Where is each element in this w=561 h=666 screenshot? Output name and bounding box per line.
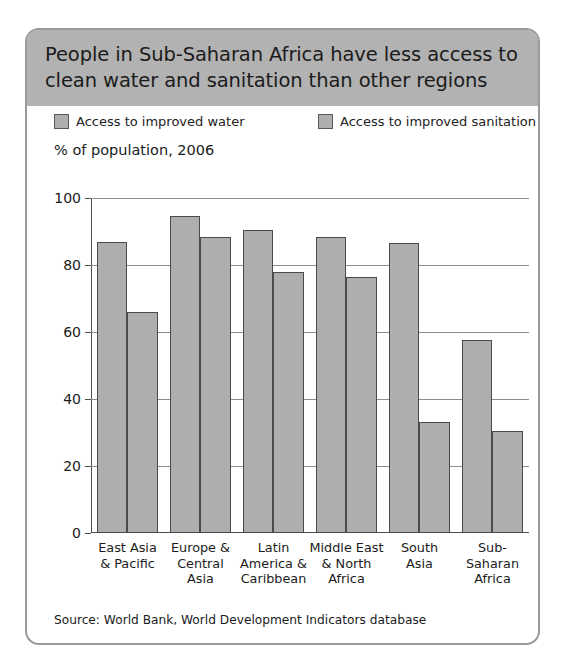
bar (97, 242, 127, 533)
y-tick-mark (85, 533, 91, 534)
legend-item-sanitation: Access to improved sanitation (318, 114, 536, 129)
legend-label-water: Access to improved water (76, 114, 244, 129)
bar (346, 277, 376, 533)
x-axis-category-label: Sub- Saharan Africa (447, 540, 537, 587)
y-tick-mark (85, 466, 91, 467)
chart-title: People in Sub-Saharan Africa have less a… (45, 42, 520, 94)
chart-figure: People in Sub-Saharan Africa have less a… (25, 28, 540, 645)
legend-swatch-sanitation-icon (318, 114, 333, 129)
bar (462, 340, 492, 533)
y-tick-mark (85, 198, 91, 199)
y-tick-mark (85, 332, 91, 333)
y-tick-label: 20 (63, 458, 81, 474)
bar (170, 216, 200, 533)
legend-label-sanitation: Access to improved sanitation (340, 114, 536, 129)
y-axis-line (91, 198, 92, 533)
chart-legend: Access to improved water Access to impro… (27, 106, 538, 140)
bar (243, 230, 273, 533)
bar-group: East Asia & Pacific (97, 198, 158, 533)
y-tick-mark (85, 399, 91, 400)
bar-group: Middle East & North Africa (316, 198, 377, 533)
bar (492, 431, 522, 533)
bar (200, 237, 230, 533)
source-note: Source: World Bank, World Development In… (54, 613, 426, 627)
plot-wrapper: 020406080100 East Asia & PacificEurope &… (27, 170, 538, 575)
chart-subtitle: % of population, 2006 (54, 142, 214, 158)
bar (316, 237, 346, 533)
bar (419, 422, 449, 533)
legend-swatch-water-icon (54, 114, 69, 129)
bar (389, 243, 419, 533)
bar-group: Latin America & Caribbean (243, 198, 304, 533)
y-tick-label: 40 (63, 391, 81, 407)
y-tick-label: 0 (72, 525, 81, 541)
y-tick-label: 60 (63, 324, 81, 340)
bar-group: Europe & Central Asia (170, 198, 231, 533)
bar (273, 272, 303, 533)
plot-area: 020406080100 East Asia & PacificEurope &… (91, 198, 529, 533)
bar (127, 312, 157, 533)
bar-group: Sub- Saharan Africa (462, 198, 523, 533)
y-tick-mark (85, 265, 91, 266)
legend-item-water: Access to improved water (54, 114, 244, 129)
y-tick-label: 80 (63, 257, 81, 273)
bar-group: South Asia (389, 198, 450, 533)
chart-title-band: People in Sub-Saharan Africa have less a… (27, 30, 538, 106)
y-tick-label: 100 (54, 190, 81, 206)
